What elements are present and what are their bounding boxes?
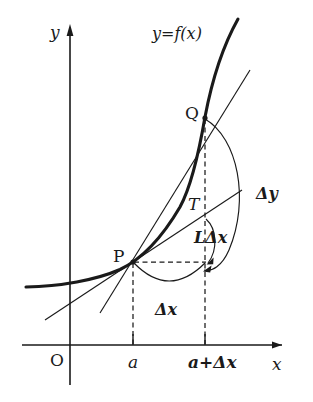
- l-delta-x-brace-arrowhead: [207, 257, 214, 264]
- delta-y-label: Δy: [256, 186, 278, 202]
- delta-x-brace-arc: [134, 263, 205, 281]
- differential-diagram-figure: y=f(x) y x O a a+Δx P Q T Δx Δy LΔx: [0, 0, 313, 402]
- point-q-marker: [202, 115, 207, 120]
- curve-equation-label: y=f(x): [152, 26, 202, 42]
- secant-line-pq: [100, 70, 250, 313]
- point-q-label: Q: [185, 105, 199, 122]
- point-p-marker: [130, 259, 135, 264]
- origin-label: O: [50, 352, 64, 369]
- x-tick-label-a: a: [128, 354, 138, 371]
- point-t-label: T: [188, 196, 199, 213]
- l-delta-x-label: LΔx: [194, 230, 227, 246]
- delta-y-brace-arrowhead: [203, 266, 212, 273]
- x-axis-arrowhead: [272, 342, 282, 349]
- y-axis-label: y: [50, 24, 60, 41]
- x-tick-label-a-plus-delta-x: a+Δx: [188, 354, 237, 371]
- x-axis-label: x: [272, 356, 282, 373]
- delta-x-label: Δx: [155, 302, 177, 318]
- point-p-label: P: [113, 248, 124, 265]
- axis-group: [22, 24, 282, 385]
- y-axis-arrowhead: [67, 24, 74, 36]
